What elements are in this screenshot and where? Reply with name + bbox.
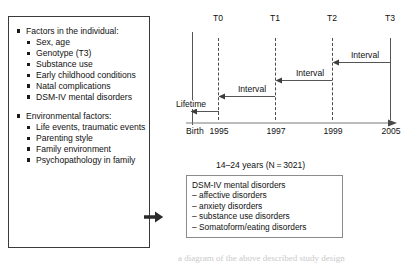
outcome-box: DSM-IV mental disorders – affective diso… — [186, 175, 343, 238]
axis-label-2005: 2005 — [381, 126, 400, 136]
group-heading-individual: Factors in the individual: — [17, 26, 149, 36]
list-item-label: DSM-IV mental disorders — [36, 92, 132, 102]
square-bullet-icon — [17, 114, 20, 117]
list-item: Early childhood conditions — [17, 70, 148, 80]
square-bullet-icon — [17, 29, 20, 32]
list-item: Natal complications — [17, 81, 149, 91]
axis-label-1997: 1997 — [266, 126, 285, 136]
caption-remnant: a diagram of the above described study d… — [178, 252, 419, 264]
list-item-label: Substance use — [36, 59, 93, 69]
factors-box: Factors in the individual: Sex, age Geno… — [8, 16, 150, 248]
square-bullet-icon — [27, 63, 30, 66]
caption-remnant-text: a diagram of the above described study d… — [178, 252, 419, 264]
axis-label-1999: 1999 — [323, 126, 342, 136]
list-item-label: Genotype (T3) — [36, 48, 91, 58]
list-item-label: Parenting style — [36, 133, 93, 143]
lifetime-label: Lifetime — [175, 100, 207, 109]
list-item: Life events, traumatic events — [17, 122, 152, 132]
list-item: Parenting style — [17, 133, 149, 143]
square-bullet-icon — [27, 52, 30, 55]
square-bullet-icon — [27, 84, 30, 87]
sample-size-label: 14–24 years (N = 3021) — [216, 160, 305, 170]
wave-label-t3: T3 — [385, 14, 395, 23]
square-bullet-icon — [27, 147, 30, 150]
figure-canvas: Factors in the individual: Sex, age Geno… — [0, 0, 419, 264]
outcome-item: – Somatoform/eating disorders — [192, 222, 342, 232]
wave-label-t2: T2 — [327, 14, 337, 23]
list-item-label: Family environment — [36, 144, 111, 154]
list-item: Psychopathology in family — [17, 155, 144, 165]
group-heading-label: Factors in the individual: — [26, 26, 119, 36]
list-item-label: Sex, age — [36, 37, 70, 47]
interval-label-t3-t2: Interval — [350, 51, 380, 60]
factors-group-environmental: Environmental factors: Life events, trau… — [9, 103, 149, 166]
outcome-item: – affective disorders — [192, 190, 342, 200]
guide-line-t3 — [390, 38, 391, 120]
square-bullet-icon — [27, 137, 30, 140]
list-item: Genotype (T3) — [17, 48, 149, 58]
list-item-label: Natal complications — [36, 81, 111, 91]
outcome-item: – substance use disorders — [192, 211, 342, 221]
group-heading-environmental: Environmental factors: — [17, 111, 149, 121]
list-item-label: Early childhood conditions — [36, 70, 136, 80]
list-item-label: Life events, traumatic events — [36, 122, 145, 132]
list-item: DSM-IV mental disorders — [17, 92, 136, 102]
outcome-box-title: DSM-IV mental disorders — [192, 180, 342, 190]
interval-label-t2-t1: Interval — [295, 69, 325, 78]
list-item: Sex, age — [17, 37, 149, 47]
list-item-label: Psychopathology in family — [36, 155, 135, 165]
list-item: Family environment — [17, 144, 149, 154]
wave-label-t1: T1 — [270, 14, 280, 23]
square-bullet-icon — [27, 74, 30, 77]
factors-group-individual: Factors in the individual: Sex, age Geno… — [9, 17, 149, 102]
wave-label-t0: T0 — [213, 14, 223, 23]
group-heading-label: Environmental factors: — [26, 111, 112, 121]
square-bullet-icon — [27, 95, 30, 98]
flow-arrow-right-icon — [144, 211, 164, 223]
square-bullet-icon — [27, 126, 30, 129]
square-bullet-icon — [27, 158, 30, 161]
axis-label-birth: Birth — [186, 126, 204, 136]
list-item: Substance use — [17, 59, 149, 69]
axis-label-1995: 1995 — [209, 126, 228, 136]
square-bullet-icon — [27, 41, 30, 44]
study-timeline: T0 T1 T2 T3 Interval Interval Interval — [186, 14, 419, 134]
interval-label-t1-t0: Interval — [237, 85, 267, 94]
outcome-item: – anxiety disorders — [192, 201, 342, 211]
